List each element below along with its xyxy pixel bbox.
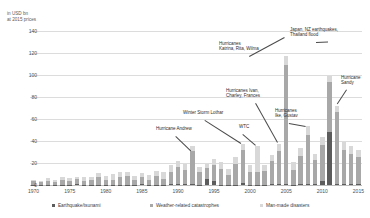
bar-segment: [320, 145, 324, 181]
bar-segment: [277, 144, 281, 151]
bar-segment: [284, 65, 288, 184]
bar-segment: [320, 137, 324, 145]
x-tick-1980: 1980: [100, 188, 111, 194]
bar-column: [176, 161, 180, 185]
bar-segment: [356, 184, 360, 185]
annotation-hurricane-sandy: Hurricane Sandy: [341, 75, 361, 86]
y-tick-80: 80: [11, 94, 37, 100]
bar-column: [60, 177, 64, 185]
bar-segment: [241, 150, 245, 183]
bar-column: [349, 146, 353, 185]
bar-column: [248, 165, 252, 185]
bar-segment: [349, 154, 353, 184]
bar-segment: [96, 177, 100, 184]
bar-segment: [96, 185, 100, 186]
bar-segment: [205, 179, 209, 185]
bar-column: [67, 178, 71, 185]
bar-segment: [255, 172, 259, 184]
annotation-hurricanes-ike-gustav: Hurricanes Ike, Gustav: [275, 108, 298, 119]
annotation-wtc: WTC: [239, 124, 249, 129]
bar-segment: [241, 183, 245, 185]
bar-segment: [104, 185, 108, 186]
bar-segment: [147, 185, 151, 186]
y-tick-40: 40: [11, 138, 37, 144]
legend-swatch-icon: [260, 204, 263, 207]
bar-segment: [342, 184, 346, 185]
bar-segment: [291, 170, 295, 184]
bar-column: [270, 155, 274, 185]
bar-segment: [349, 184, 353, 185]
bar-segment: [335, 184, 339, 185]
bar-column: [241, 144, 245, 185]
bar-segment: [111, 185, 115, 186]
bar-column: [342, 142, 346, 185]
bar-segment: [291, 185, 295, 186]
bar-column: [255, 146, 259, 185]
bar-segment: [306, 126, 310, 135]
bar-segment: [313, 154, 317, 161]
bar-column: [284, 56, 288, 185]
annotation-hurricanes-ivan-charley: Hurricanes Ivan, Charley, Frances: [226, 88, 260, 99]
y-tick-120: 120: [11, 50, 37, 56]
bar-segment: [75, 184, 79, 185]
bar-column: [161, 172, 165, 185]
bar-segment: [140, 184, 144, 185]
bar-segment: [262, 165, 266, 172]
bar-column: [169, 165, 173, 185]
bar-segment: [255, 185, 259, 186]
bar-column: [212, 159, 216, 185]
bar-segment: [89, 185, 93, 186]
bar-segment: [270, 184, 274, 185]
bar-segment: [313, 160, 317, 184]
bar-column: [89, 177, 93, 185]
annotation-hurricanes-katrina-rita: Hurricanes Katrina, Rita, Wilma: [219, 41, 259, 52]
legend-item-earthquake-tsunami[interactable]: Earthquake/tsunami: [52, 203, 101, 208]
y-axis-unit-caption: in USD bn at 2015 prices: [7, 11, 36, 22]
bar-segment: [125, 176, 129, 184]
bar-segment: [262, 185, 266, 186]
bar-segment: [320, 181, 324, 185]
gridline-0: [30, 185, 362, 186]
bar-segment: [233, 164, 237, 185]
bar-column: [96, 173, 100, 185]
bar-segment: [284, 56, 288, 65]
bar-column: [104, 176, 108, 185]
bar-column: [233, 157, 237, 185]
bar-segment: [291, 162, 295, 170]
bar-column: [298, 148, 302, 186]
bar-segment: [39, 185, 43, 186]
bar-column: [205, 164, 209, 186]
bar-column: [46, 178, 50, 185]
bar-segment: [270, 161, 274, 184]
bar-column: [125, 172, 129, 185]
chart-legend: Earthquake/tsunamiWeather-related catast…: [30, 201, 362, 213]
bar-column: [190, 146, 194, 185]
bar-segment: [327, 76, 331, 83]
legend-item-weather-related-catastrophes[interactable]: Weather-related catastrophes: [150, 203, 219, 208]
y-tick-20: 20: [11, 160, 37, 166]
annotation-winter-storm-lothar: Winter Storm Lothar: [183, 110, 223, 115]
bar-segment: [342, 142, 346, 150]
bar-segment: [212, 165, 216, 182]
bar-segment: [219, 169, 223, 184]
bar-segment: [132, 185, 136, 186]
x-tick-1985: 1985: [136, 188, 147, 194]
bar-column: [75, 177, 79, 185]
bar-segment: [226, 185, 230, 186]
bar-segment: [248, 185, 252, 186]
bar-segment: [205, 168, 209, 179]
bar-segment: [298, 156, 302, 185]
bar-series-layer: [30, 25, 362, 185]
bar-segment: [118, 177, 122, 184]
y-tick-60: 60: [11, 116, 37, 122]
bar-segment: [161, 185, 165, 186]
bar-segment: [298, 184, 302, 185]
x-tick-1995: 1995: [208, 188, 219, 194]
bar-column: [219, 162, 223, 185]
bar-segment: [176, 184, 180, 185]
x-tick-1990: 1990: [172, 188, 183, 194]
bar-segment: [169, 165, 173, 172]
bar-column: [262, 165, 266, 185]
legend-item-man-made-disasters[interactable]: Man-made disasters: [260, 203, 309, 208]
bar-segment: [248, 165, 252, 172]
